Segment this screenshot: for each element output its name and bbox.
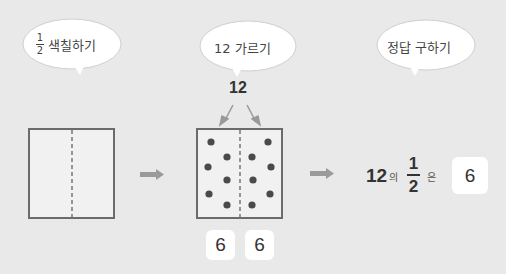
fraction-half: 1 2 [36,33,44,56]
split-arrows-icon [220,105,260,125]
split-box-right: 6 [245,230,274,260]
bubble-label-find-answer: 정답 구하기 [387,37,451,56]
divided-square [197,129,282,218]
total-count-label: 12 [229,79,247,97]
result-fraction: 1 2 [407,155,420,195]
arrow-right-icon [140,169,164,180]
split-box-left: 6 [206,230,235,260]
arrow-right-icon [310,168,334,179]
result-whole: 12 [366,165,387,187]
whole-square [29,129,114,218]
result-particle-is: 은 [427,169,436,184]
result-answer-box: 6 [452,157,488,194]
result-particle-of: 의 [389,169,398,184]
bubble-label-divide-12: 12 가르기 [214,38,271,57]
bubble-label-shade-half: 1 2 색칠하기 [36,33,96,56]
